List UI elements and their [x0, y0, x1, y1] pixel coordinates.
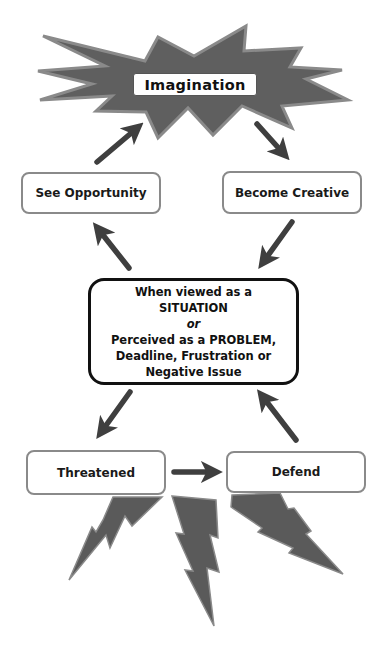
- become-creative-node: Become Creative: [222, 171, 362, 214]
- center-line-6: Negative Issue: [145, 364, 241, 380]
- threatened-node: Threatened: [26, 450, 166, 495]
- arrow-center-to-threatened: [102, 392, 130, 431]
- center-line-5: Deadline, Frustration or: [116, 348, 271, 364]
- lightning-bolt-left-icon: [69, 497, 162, 580]
- situation-problem-node: When viewed as a SITUATION or Perceived …: [88, 278, 299, 385]
- center-line-1: When viewed as a: [135, 284, 252, 300]
- arrow-defend-to-center: [263, 397, 296, 440]
- become-creative-label: Become Creative: [235, 186, 349, 200]
- see-opportunity-node: See Opportunity: [21, 172, 161, 214]
- arrow-creative-to-center: [264, 222, 292, 261]
- arrow-imagination-to-creative: [257, 124, 283, 153]
- imagination-label: Imagination: [133, 73, 257, 96]
- arrow-opportunity-to-imagination: [97, 129, 136, 162]
- center-line-or: or: [187, 316, 201, 332]
- arrow-center-to-opportunity: [99, 230, 129, 268]
- lightning-bolt-right-icon: [231, 493, 343, 574]
- lightning-bolt-center-icon: [172, 496, 219, 626]
- threatened-label: Threatened: [57, 466, 135, 480]
- center-line-2: SITUATION: [159, 300, 228, 316]
- defend-label: Defend: [272, 465, 321, 479]
- defend-node: Defend: [226, 451, 366, 493]
- center-line-4: Perceived as a PROBLEM,: [111, 332, 276, 348]
- see-opportunity-label: See Opportunity: [35, 186, 146, 200]
- lightning-bolts: [69, 493, 343, 626]
